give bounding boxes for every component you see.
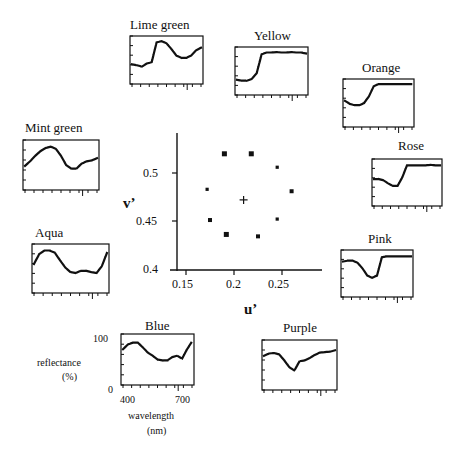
- spectrum-frame-yellow: [235, 47, 308, 95]
- data-point: [224, 232, 229, 237]
- title-aqua: Aqua: [35, 225, 63, 241]
- data-point: [276, 217, 279, 220]
- chromaticity-plot: [0, 0, 475, 458]
- title-pink: Pink: [368, 231, 392, 247]
- data-point: [222, 151, 227, 156]
- spectrum-curve-aqua: [34, 251, 107, 274]
- data-point: [256, 234, 260, 238]
- u-axis-label: u’: [244, 301, 257, 318]
- data-point: [249, 151, 254, 156]
- data-point: [290, 189, 294, 193]
- y-tick-0.5: 0.5: [143, 166, 158, 181]
- reflectance-label: reflectance: [37, 357, 81, 368]
- title-purple: Purple: [283, 320, 317, 336]
- wavelength-unit-label: (nm): [147, 425, 166, 436]
- title-lime-green: Lime green: [130, 17, 190, 33]
- x-min-label: 400: [120, 394, 135, 405]
- y-tick-0.45: 0.45: [136, 214, 157, 229]
- data-point: [206, 188, 209, 191]
- y-max-label: 100: [93, 333, 108, 344]
- spectrum-curve-blue: [123, 342, 192, 361]
- y-min-label: 0: [108, 384, 113, 395]
- spectrum-curve-rose: [374, 165, 440, 186]
- x-tick-0.2: 0.2: [226, 277, 241, 292]
- spectrum-frame-purple: [262, 340, 337, 390]
- y-tick-0.4: 0.4: [143, 262, 158, 277]
- title-blue: Blue: [145, 318, 170, 334]
- title-orange: Orange: [362, 60, 400, 76]
- title-rose: Rose: [398, 138, 424, 154]
- x-tick-0.25: 0.25: [268, 277, 289, 292]
- wavelength-label: wavelength: [128, 410, 174, 421]
- title-mint-green: Mint green: [25, 120, 82, 136]
- x-max-label: 700: [175, 394, 190, 405]
- spectrum-curve-orange: [345, 84, 412, 105]
- chromaticity-scatter-svg: [0, 0, 475, 458]
- spectrum-curve-pink: [343, 256, 411, 278]
- title-yellow: Yellow: [254, 28, 291, 44]
- v-axis-label: v’: [123, 195, 136, 212]
- spectrum-frame-mint-green: [23, 140, 99, 190]
- spectrum-curve-yellow: [237, 52, 306, 81]
- reflectance-unit-label: (%): [62, 371, 77, 382]
- data-point: [276, 166, 279, 169]
- spectrum-curve-lime-green: [132, 41, 201, 67]
- spectrum-curve-mint-green: [25, 147, 97, 169]
- x-tick-0.15: 0.15: [172, 277, 193, 292]
- spectrum-frame-orange: [343, 79, 414, 127]
- spectrum-curve-purple: [264, 350, 335, 370]
- data-point: [208, 218, 212, 222]
